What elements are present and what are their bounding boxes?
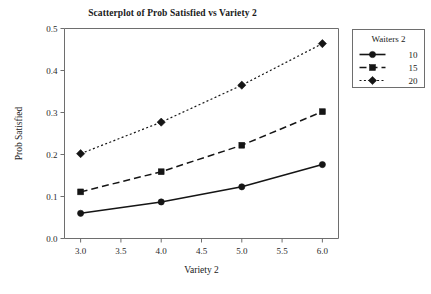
x-tick-label: 4.0 (156, 246, 168, 256)
y-tick-label: 0.2 (46, 150, 57, 160)
data-point (319, 109, 325, 115)
x-tick-label: 6.0 (317, 246, 329, 256)
legend-label-10: 10 (409, 50, 419, 60)
legend-marker-15 (370, 65, 376, 71)
y-tick-label: 0.3 (46, 108, 58, 118)
data-point (318, 40, 326, 48)
series-layer (77, 40, 327, 217)
legend-label-20: 20 (409, 76, 419, 86)
y-tick-label: 0.1 (46, 192, 57, 202)
legend-title: Waiters 2 (371, 34, 405, 44)
data-point (157, 118, 165, 126)
legend-marker-10 (369, 51, 375, 57)
data-point (239, 184, 245, 190)
data-point (78, 189, 84, 195)
axis-layer: 0.00.10.20.30.40.53.03.54.04.55.05.56.0V… (14, 24, 339, 275)
scatterplot-figure: 0.00.10.20.30.40.53.03.54.04.55.05.56.0V… (0, 0, 431, 294)
series-line-20 (81, 44, 323, 154)
data-point (158, 169, 164, 175)
x-tick-label: 3.0 (75, 246, 87, 256)
legend-layer: Waiters 2101520 (353, 30, 425, 88)
data-point (77, 150, 85, 158)
chart-page: Scatterplot of Prob Satisfied vs Variety… (0, 0, 431, 294)
series-15 (78, 109, 326, 195)
y-tick-label: 0.5 (46, 24, 58, 34)
x-tick-label: 4.5 (196, 246, 208, 256)
y-tick-label: 0.4 (46, 66, 58, 76)
x-tick-label: 5.5 (276, 246, 288, 256)
series-line-10 (81, 165, 323, 214)
series-20 (77, 40, 327, 158)
series-line-15 (81, 112, 323, 192)
x-tick-label: 5.0 (236, 246, 248, 256)
data-point (238, 81, 246, 89)
series-10 (78, 161, 326, 216)
legend-label-15: 15 (409, 63, 419, 73)
y-tick-label: 0.0 (46, 234, 58, 244)
x-axis-title: Variety 2 (184, 265, 219, 275)
y-axis-title: Prob Satisfied (14, 106, 24, 160)
x-tick-label: 3.5 (115, 246, 127, 256)
data-point (78, 210, 84, 216)
data-point (239, 142, 245, 148)
data-point (158, 199, 164, 205)
data-point (319, 161, 325, 167)
